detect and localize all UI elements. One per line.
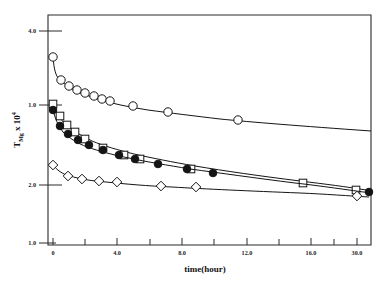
marker-filled-circle	[99, 146, 107, 154]
plot-frame	[48, 15, 371, 245]
marker-open-circle	[164, 108, 172, 116]
x-tick-label-4: 16.0	[306, 249, 317, 256]
y-tick-label-2: 2.0	[28, 181, 36, 188]
marker-open-diamond	[94, 176, 104, 186]
marker-open-circle	[106, 97, 114, 105]
y-tick-label-3: 1.0	[28, 239, 36, 246]
marker-open-circle	[49, 53, 57, 61]
y-tick-label-1: 1.0	[28, 101, 36, 108]
marker-filled-circle	[85, 141, 93, 149]
marker-open-circle	[73, 86, 81, 94]
marker-open-circle	[90, 92, 98, 100]
marker-open-diamond	[77, 174, 87, 184]
chart-figure: 4.0 1.0 2.0 1.0 0 4.0 8.0 12.0 16.0 30.0	[0, 0, 391, 285]
x-tick-label-1: 4.0	[113, 249, 121, 256]
marker-open-diamond	[156, 181, 166, 191]
marker-open-square	[63, 121, 71, 129]
x-axis-major-ticks	[53, 238, 357, 245]
marker-filled-circle	[74, 136, 82, 144]
marker-filled-circle	[64, 130, 72, 138]
series-open-circle-curve	[53, 57, 371, 131]
y-axis-title-exp: 4	[11, 112, 17, 115]
x-axis-minor-ticks	[85, 239, 334, 245]
marker-open-square	[299, 179, 307, 187]
marker-filled-circle	[209, 169, 217, 177]
marker-filled-circle	[49, 106, 57, 114]
marker-open-circle	[81, 89, 89, 97]
marker-open-square	[56, 112, 64, 120]
x-tick-label-5: 30.0	[352, 249, 363, 256]
marker-open-diamond	[112, 177, 122, 187]
marker-open-diamond	[191, 182, 201, 192]
y-axis-title: TMg x 104	[11, 112, 24, 148]
marker-open-circle	[65, 82, 73, 90]
marker-filled-circle	[365, 188, 373, 196]
y-axis-ticks	[39, 31, 62, 243]
marker-filled-circle	[131, 155, 139, 163]
y-tick-label-0: 4.0	[28, 27, 36, 34]
x-tick-label-3: 12.0	[242, 249, 253, 256]
marker-open-circle	[129, 102, 137, 110]
marker-filled-circle	[56, 122, 64, 130]
x-tick-label-0: 0	[51, 249, 54, 256]
marker-filled-circle	[183, 165, 191, 173]
marker-filled-circle	[115, 151, 123, 159]
svg-text:TMg x 104: TMg x 104	[11, 112, 24, 148]
marker-filled-circle	[154, 160, 162, 168]
marker-open-circle	[57, 76, 65, 84]
x-tick-label-2: 8.0	[178, 249, 186, 256]
series-open-diamond-markers	[48, 160, 362, 201]
series-open-circle-markers	[49, 53, 242, 124]
marker-open-diamond	[63, 171, 73, 181]
y-axis-title-mult: x 10	[12, 115, 22, 134]
chart-plot-area: 4.0 1.0 2.0 1.0 0 4.0 8.0 12.0 16.0 30.0	[0, 0, 391, 285]
marker-open-square	[71, 128, 79, 136]
y-axis-title-sub: Mg	[18, 133, 24, 142]
marker-open-circle	[98, 95, 106, 103]
x-axis-title: time(hour)	[184, 264, 226, 274]
marker-open-circle	[234, 116, 242, 124]
